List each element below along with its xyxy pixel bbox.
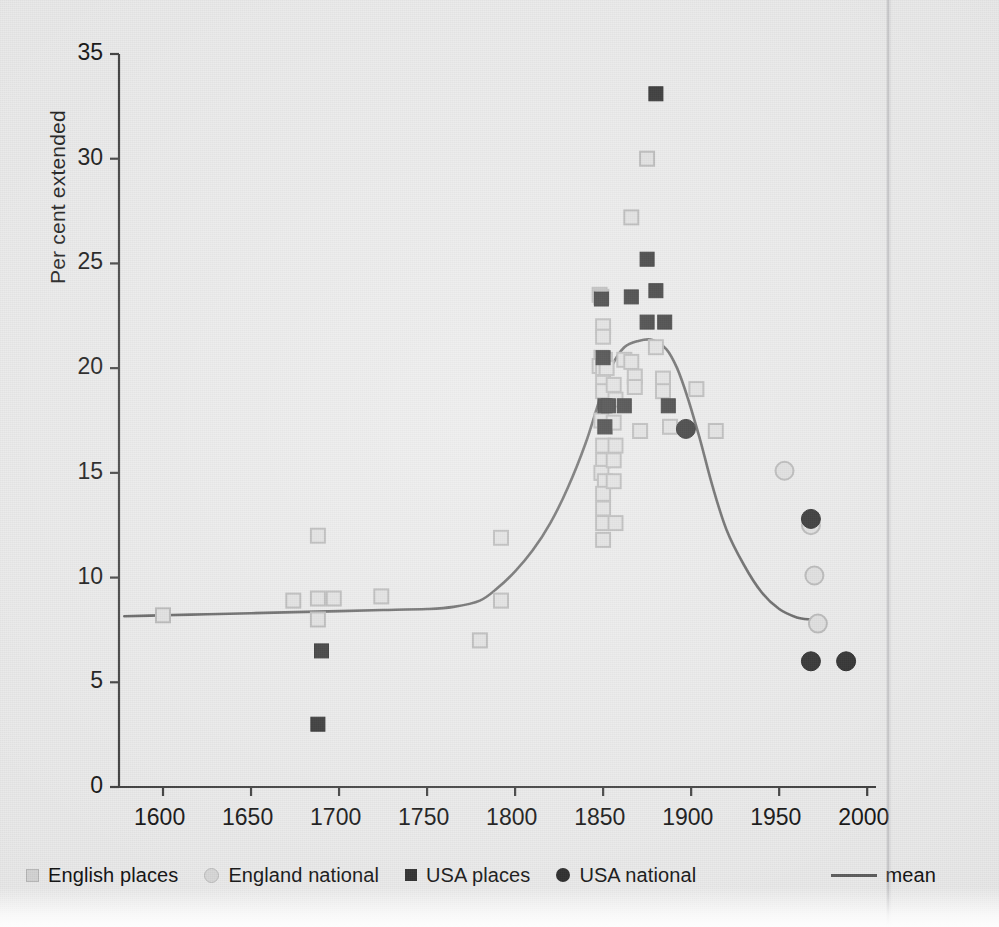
point-usa-places xyxy=(640,252,654,266)
y-tick-label: 25 xyxy=(77,248,103,275)
point-usa-places xyxy=(661,399,675,413)
data-points-layer xyxy=(156,87,856,731)
point-usa-places xyxy=(601,399,615,413)
legend-circle-light-icon xyxy=(204,868,219,883)
point-english-places xyxy=(709,424,723,438)
legend-item-england-national[interactable]: England national xyxy=(204,864,379,887)
legend-item-label: USA places xyxy=(426,864,530,887)
figure-page: 0510152025303516001650170017501800185019… xyxy=(0,0,999,927)
x-tick-label: 2000 xyxy=(838,804,999,831)
point-english-places xyxy=(596,502,610,516)
y-tick-label: 0 xyxy=(90,772,103,799)
point-england-national xyxy=(809,615,827,633)
point-usa-places xyxy=(598,420,612,434)
point-usa-places xyxy=(311,717,325,731)
point-english-places xyxy=(286,594,300,608)
point-english-places xyxy=(640,152,654,166)
y-tick-label: 10 xyxy=(77,563,103,590)
point-usa-places xyxy=(649,284,663,298)
point-english-places xyxy=(649,340,663,354)
point-english-places xyxy=(311,613,325,627)
point-usa-places xyxy=(596,351,610,365)
point-usa-places xyxy=(617,399,631,413)
point-english-places xyxy=(374,589,388,603)
legend-square-light-icon xyxy=(26,869,39,882)
point-usa-places xyxy=(624,290,638,304)
point-english-places xyxy=(607,453,621,467)
point-english-places xyxy=(327,592,341,606)
point-english-places xyxy=(689,382,703,396)
point-english-places xyxy=(656,384,670,398)
series-english-places xyxy=(156,152,723,648)
y-tick-label: 5 xyxy=(90,667,103,694)
point-english-places xyxy=(494,594,508,608)
point-usa-national xyxy=(676,419,695,438)
series-england-national xyxy=(776,462,827,633)
point-english-places xyxy=(633,424,647,438)
point-english-places xyxy=(607,474,621,488)
point-usa-places xyxy=(594,292,608,306)
chart-legend: English placesEngland nationalUSA places… xyxy=(26,855,976,895)
series-usa-national xyxy=(676,419,855,670)
y-tick-label: 35 xyxy=(77,39,103,66)
point-english-places xyxy=(596,330,610,344)
point-england-national xyxy=(805,567,823,585)
point-english-places xyxy=(628,380,642,394)
point-usa-national xyxy=(801,509,820,528)
point-usa-national xyxy=(837,652,856,671)
point-english-places xyxy=(311,529,325,543)
point-england-national xyxy=(776,462,794,480)
mean-curve xyxy=(124,339,811,619)
legend-item-label: mean xyxy=(886,864,936,887)
y-tick-label: 30 xyxy=(77,144,103,171)
axes-layer xyxy=(110,54,876,796)
legend-item-usa-places[interactable]: USA places xyxy=(405,864,530,887)
point-english-places xyxy=(311,592,325,606)
legend-circle-dark-icon xyxy=(556,868,570,882)
scatter-plot xyxy=(0,0,999,927)
legend-item-english-places[interactable]: English places xyxy=(26,864,178,887)
point-usa-places xyxy=(640,315,654,329)
point-english-places xyxy=(156,608,170,622)
legend-item-label: English places xyxy=(48,864,178,887)
legend-line-icon xyxy=(831,874,877,877)
point-english-places xyxy=(494,531,508,545)
y-tick-label: 15 xyxy=(77,458,103,485)
point-english-places xyxy=(609,516,623,530)
point-english-places xyxy=(609,439,623,453)
point-usa-places xyxy=(658,315,672,329)
point-english-places xyxy=(624,355,638,369)
point-english-places xyxy=(624,210,638,224)
legend-item-mean[interactable]: mean xyxy=(831,864,936,887)
point-usa-places xyxy=(315,644,329,658)
point-english-places xyxy=(663,420,677,434)
legend-item-usa-national[interactable]: USA national xyxy=(556,864,696,887)
point-usa-national xyxy=(801,652,820,671)
point-english-places xyxy=(473,633,487,647)
y-tick-label: 20 xyxy=(77,353,103,380)
point-usa-places xyxy=(649,87,663,101)
series-usa-places xyxy=(311,87,675,731)
mean-curve-path xyxy=(124,339,811,619)
point-english-places xyxy=(596,533,610,547)
point-english-places xyxy=(607,378,621,392)
y-axis-title: Per cent extended xyxy=(46,111,70,285)
legend-square-dark-icon xyxy=(405,869,417,881)
legend-item-label: USA national xyxy=(579,864,696,887)
legend-item-label: England national xyxy=(228,864,379,887)
